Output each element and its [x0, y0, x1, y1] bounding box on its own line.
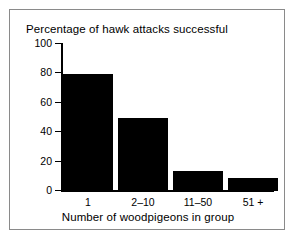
bar-2-10[interactable] — [118, 118, 168, 191]
plot-area: 100 80 60 40 20 0 1 2–10 11–50 51 + Numb… — [10, 10, 286, 231]
x-tick-label-1: 1 — [63, 196, 113, 208]
bar-51plus[interactable] — [228, 178, 278, 191]
bar-1[interactable] — [63, 74, 113, 191]
x-axis-label: Number of woodpigeons in group — [10, 211, 286, 223]
chart-frame: Percentage of hawk attacks successful 10… — [9, 9, 285, 230]
x-tick-label-51plus: 51 + — [228, 196, 278, 208]
x-tick-label-11-50: 11–50 — [173, 196, 223, 208]
chart-figure: Percentage of hawk attacks successful 10… — [0, 0, 296, 242]
x-tick-label-2-10: 2–10 — [118, 196, 168, 208]
bars-layer — [10, 10, 286, 191]
bar-11-50[interactable] — [173, 171, 223, 191]
